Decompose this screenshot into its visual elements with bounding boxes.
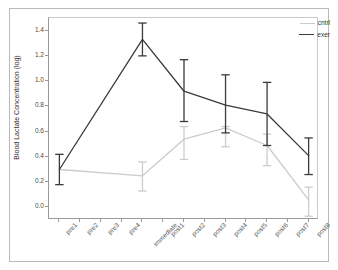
legend-item-cntrl: cntrl xyxy=(299,20,330,27)
x-axis-tick-label: pre4 xyxy=(127,222,141,236)
legend-label-cntrl: cntrl xyxy=(318,20,330,27)
y-axis-tick-label: 0.8 xyxy=(4,102,44,109)
x-axis-tick-label: post7 xyxy=(295,222,311,238)
legend-swatch-exer xyxy=(299,34,314,35)
chart-svg xyxy=(49,18,319,220)
y-axis-tick-label: 1.4 xyxy=(4,26,44,33)
legend-swatch-cntrl xyxy=(300,23,315,24)
y-axis-title: Blood Lactate Concentration (log) xyxy=(13,18,20,198)
y-axis-tick-label: 0.4 xyxy=(4,153,44,160)
x-axis-tick-label: post5 xyxy=(253,222,269,238)
series-cntrl xyxy=(59,127,312,217)
series-exer xyxy=(55,23,313,185)
y-axis-tick-label: 0.0 xyxy=(4,203,44,210)
x-axis-tick-label: pre1 xyxy=(65,222,79,236)
x-axis-tick-labels: pre1pre2pre3pre4immediatepost1post2post3… xyxy=(48,222,318,268)
y-axis-tick-label: 0.6 xyxy=(4,127,44,134)
y-axis-tick-label: 1.2 xyxy=(4,52,44,59)
y-axis-tick-labels: 0.00.20.40.60.81.01.21.4 xyxy=(0,17,44,219)
chart-legend: cntrlexer xyxy=(299,20,330,43)
legend-label-exer: exer xyxy=(317,32,330,39)
x-axis-tick-label: pre3 xyxy=(107,222,121,236)
y-axis-tick-label: 0.2 xyxy=(4,178,44,185)
plot-area xyxy=(48,17,318,219)
x-axis-tick-label: post6 xyxy=(274,222,290,238)
figure-container: 0.00.20.40.60.81.01.21.4 Blood Lactate C… xyxy=(0,0,338,270)
x-axis-tick-label: post4 xyxy=(232,222,248,238)
y-axis-tick-label: 1.0 xyxy=(4,77,44,84)
legend-item-exer: exer xyxy=(299,32,330,39)
x-axis-tick-label: pre2 xyxy=(86,222,100,236)
x-axis-tick-label: post2 xyxy=(191,222,207,238)
x-axis-tick-label: post3 xyxy=(211,222,227,238)
